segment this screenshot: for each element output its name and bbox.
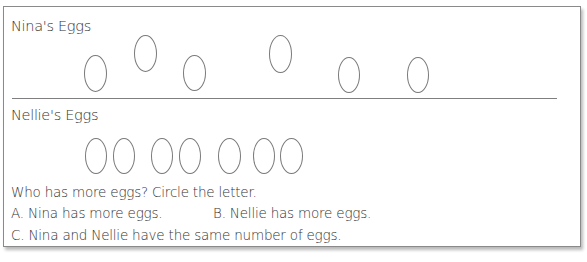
nina-egg-icon [338, 57, 360, 93]
nina-section-title: Nina's Eggs [11, 17, 91, 35]
nina-egg-icon [183, 55, 206, 91]
answer-option-c[interactable]: C. Nina and Nellie have the same number … [11, 227, 341, 243]
answer-option-b[interactable]: B. Nellie has more eggs. [213, 205, 371, 221]
nellie-egg-icon [85, 138, 107, 174]
nellie-egg-icon [179, 138, 201, 174]
nellie-egg-icon [253, 138, 275, 174]
nellie-egg-icon [151, 138, 173, 174]
nina-egg-icon [407, 57, 429, 93]
worksheet-card: Nina's Eggs Nellie's Eggs Who has more e… [3, 6, 581, 247]
nina-egg-icon [84, 55, 107, 92]
nellie-egg-icon [280, 138, 303, 174]
nellie-egg-icon [218, 138, 241, 174]
answer-option-a[interactable]: A. Nina has more eggs. [11, 205, 162, 221]
nina-egg-icon [134, 35, 157, 72]
nellie-egg-icon [113, 138, 135, 174]
nellie-section-title: Nellie's Eggs [11, 106, 98, 124]
section-divider [12, 98, 557, 99]
nina-egg-icon [269, 35, 292, 73]
question-prompt: Who has more eggs? Circle the letter. [11, 184, 257, 200]
